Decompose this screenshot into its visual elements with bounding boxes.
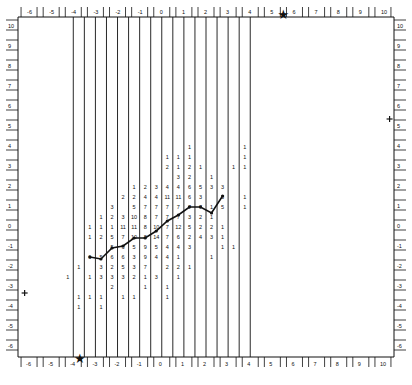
count-cell: 3 xyxy=(199,194,202,200)
count-cell: 7 xyxy=(155,204,158,210)
trend-point xyxy=(177,213,180,216)
count-cell: 1 xyxy=(99,214,102,220)
x-tick-label-top: -3 xyxy=(93,9,98,15)
x-tick-label-top: 0 xyxy=(160,9,163,15)
count-cell: 2 xyxy=(133,194,136,200)
y-tick-label-left: 4 xyxy=(8,143,11,149)
count-cell: 6 xyxy=(110,254,113,260)
x-tick-label-bottom: -6 xyxy=(26,361,31,367)
y-tick-label-left: -5 xyxy=(8,323,13,329)
count-cell: 3 xyxy=(210,184,213,190)
count-cell: 2 xyxy=(199,214,202,220)
count-cell: 11 xyxy=(120,224,126,230)
count-cell: 2 xyxy=(122,194,125,200)
count-cell: 1 xyxy=(232,164,235,170)
count-cell: 12 xyxy=(175,224,181,230)
count-cell: 1 xyxy=(144,284,147,290)
count-cell: 1 xyxy=(243,194,246,200)
count-cell: 6 xyxy=(122,254,125,260)
count-cell: 6 xyxy=(188,184,191,190)
count-cell: 3 xyxy=(221,184,224,190)
y-tick-label-right: 10 xyxy=(397,23,403,29)
y-tick-label-left: 10 xyxy=(8,23,14,29)
count-cell: 2 xyxy=(166,164,169,170)
x-tick-label-bottom: 8 xyxy=(336,361,339,367)
trend-point xyxy=(110,246,113,249)
y-tick-label-left: 8 xyxy=(8,63,11,69)
count-cell: 3 xyxy=(210,234,213,240)
count-cell: 5 xyxy=(188,224,191,230)
count-cell: 5 xyxy=(110,234,113,240)
count-cell: 1 xyxy=(232,244,235,250)
count-cell: 5 xyxy=(122,264,125,270)
count-cell: 1 xyxy=(166,284,169,290)
y-tick-label-left: 9 xyxy=(8,43,11,49)
count-cell: 4 xyxy=(144,194,147,200)
count-cell: 1 xyxy=(144,274,147,280)
trend-point xyxy=(133,236,136,239)
count-cell: 7 xyxy=(166,204,169,210)
count-cell: 1 xyxy=(177,154,180,160)
x-tick-label-bottom: -1 xyxy=(137,361,142,367)
y-tick-label-left: 1 xyxy=(8,203,11,209)
count-cell: 1 xyxy=(243,154,246,160)
x-tick-label-top: 3 xyxy=(226,9,229,15)
y-tick-label-left: 2 xyxy=(8,183,11,189)
x-tick-label-bottom: 7 xyxy=(314,361,317,367)
x-tick-label-bottom: 6 xyxy=(291,361,294,367)
count-cell: 1 xyxy=(188,264,191,270)
count-cell: 2 xyxy=(144,184,147,190)
count-cell: 3 xyxy=(188,244,191,250)
star-icon: ★ xyxy=(278,7,290,22)
trend-point xyxy=(121,244,124,247)
count-cell: 3 xyxy=(155,274,158,280)
y-tick-label-left: -3 xyxy=(8,283,13,289)
y-tick-label-right: 7 xyxy=(397,83,400,89)
x-tick-label-bottom: -3 xyxy=(92,361,97,367)
y-tick-label-left: 6 xyxy=(8,103,11,109)
count-cell: 1 xyxy=(188,144,191,150)
y-tick-label-right: -3 xyxy=(397,283,402,289)
count-cell: 7 xyxy=(166,224,169,230)
count-cell: 1 xyxy=(166,294,169,300)
x-tick-label-top: 9 xyxy=(359,9,362,15)
count-cell: 1 xyxy=(177,274,180,280)
count-cell: 2 xyxy=(99,234,102,240)
x-tick-label-bottom: 9 xyxy=(358,361,361,367)
count-cell: 1 xyxy=(243,144,246,150)
count-cell: 1 xyxy=(99,304,102,310)
count-cell: 1 xyxy=(122,294,125,300)
x-tick-label-top: -2 xyxy=(116,9,121,15)
count-cell: 1 xyxy=(199,164,202,170)
count-cell: 7 xyxy=(144,204,147,210)
x-tick-label-top: 1 xyxy=(182,9,185,15)
y-tick-label-left: 5 xyxy=(8,123,11,129)
x-tick-label-bottom: 5 xyxy=(269,361,272,367)
count-cell: 3 xyxy=(177,174,180,180)
count-cells: 1111112121113211234465332244111163313577… xyxy=(66,144,246,310)
count-cell: 1 xyxy=(133,294,136,300)
count-cell: 14 xyxy=(153,234,159,240)
count-cell: 3 xyxy=(133,254,136,260)
x-tick-label-top: 8 xyxy=(337,9,340,15)
count-cell: 2 xyxy=(166,264,169,270)
count-cell: 1 xyxy=(188,154,191,160)
star-icon: ★ xyxy=(74,351,86,366)
y-tick-label-right: 3 xyxy=(397,163,400,169)
count-cell: 1 xyxy=(99,294,102,300)
trend-point xyxy=(155,229,158,232)
count-cell: 6 xyxy=(177,234,180,240)
count-cell: 5 xyxy=(199,184,202,190)
x-tick-label-top: -4 xyxy=(71,9,76,15)
count-cell: 1 xyxy=(177,254,180,260)
count-cell: 2 xyxy=(110,264,113,270)
count-cell: 5 xyxy=(221,204,224,210)
count-cell: 1 xyxy=(243,164,246,170)
count-cell: 3 xyxy=(110,274,113,280)
count-cell: 2 xyxy=(188,174,191,180)
x-tick-label-bottom: 4 xyxy=(247,361,250,367)
count-cell: 2 xyxy=(177,264,180,270)
count-cell: 8 xyxy=(144,214,147,220)
count-cell: 4 xyxy=(166,244,169,250)
count-cell: 7 xyxy=(166,214,169,220)
